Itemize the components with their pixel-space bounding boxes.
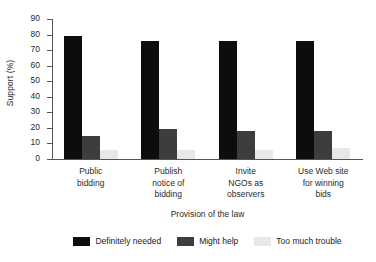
legend-swatch bbox=[254, 237, 271, 246]
x-axis-category-label: Publishnotice ofbidding bbox=[125, 166, 211, 201]
bar bbox=[177, 150, 195, 159]
plot-area bbox=[52, 19, 362, 159]
x-axis-category-label: Use Web sitefor winningbids bbox=[280, 166, 366, 201]
y-axis-tick-label: 60 bbox=[31, 60, 40, 70]
bar bbox=[64, 36, 82, 159]
legend-label: Too much trouble bbox=[276, 236, 341, 246]
y-axis-tick-label: 20 bbox=[31, 122, 40, 132]
bar bbox=[141, 41, 159, 159]
bar bbox=[255, 150, 273, 159]
y-axis-tick-label: 0 bbox=[35, 153, 40, 163]
bar bbox=[296, 41, 314, 159]
bar-group bbox=[141, 19, 195, 159]
y-axis-tick-mark bbox=[47, 159, 52, 160]
bar-group bbox=[296, 19, 350, 159]
bar bbox=[332, 148, 350, 159]
x-axis-title-label: Provision of the law bbox=[171, 209, 245, 219]
legend-swatch bbox=[177, 237, 194, 246]
legend-entry[interactable]: Might help bbox=[177, 236, 238, 246]
y-axis-tick-label: 70 bbox=[31, 44, 40, 54]
y-axis-title: Support (%) bbox=[0, 0, 20, 165]
bar bbox=[237, 131, 255, 159]
bar bbox=[82, 136, 100, 159]
bar bbox=[219, 41, 237, 159]
legend-entry[interactable]: Definitely needed bbox=[73, 236, 161, 246]
legend-label: Might help bbox=[199, 236, 238, 246]
y-axis-title-label: Support (%) bbox=[5, 59, 15, 105]
legend-label: Definitely needed bbox=[95, 236, 161, 246]
bar-chart: Support (%) 0102030405060708090 Publicbi… bbox=[0, 0, 376, 262]
bar bbox=[159, 129, 177, 159]
y-axis-tick-label: 30 bbox=[31, 106, 40, 116]
legend-swatch bbox=[73, 237, 90, 246]
bar-group bbox=[64, 19, 118, 159]
x-axis-category-label: InviteNGOs asobservers bbox=[203, 166, 289, 201]
y-axis-tick-label: 80 bbox=[31, 29, 40, 39]
chart-legend: Definitely neededMight helpToo much trou… bbox=[52, 236, 363, 246]
x-axis-line bbox=[52, 159, 363, 160]
y-axis-tick-label: 10 bbox=[31, 137, 40, 147]
y-axis-tick-label: 90 bbox=[31, 13, 40, 23]
x-axis-category-label: Publicbidding bbox=[48, 166, 134, 189]
x-axis-title: Provision of the law bbox=[52, 209, 363, 219]
y-axis-tick-label: 40 bbox=[31, 91, 40, 101]
bar-group bbox=[219, 19, 273, 159]
bar bbox=[100, 150, 118, 159]
bar bbox=[314, 131, 332, 159]
y-axis-tick-label: 50 bbox=[31, 75, 40, 85]
legend-entry[interactable]: Too much trouble bbox=[254, 236, 341, 246]
